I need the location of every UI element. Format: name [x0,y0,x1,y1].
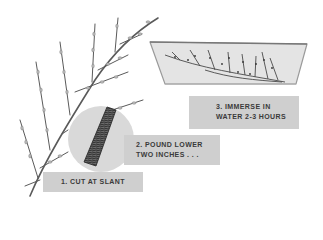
step-2-line-2: TWO INCHES . . . [136,150,220,160]
step-2-line-1: 2. POUND LOWER [136,140,220,150]
step-3-label: 3. IMMERSE IN WATER 2-3 HOURS [189,96,299,129]
step-1-label: 1. CUT AT SLANT [43,172,143,192]
water-basin [150,42,307,84]
step-2-label: 2. POUND LOWER TWO INCHES . . . [124,135,220,165]
step-3-line-2: WATER 2-3 HOURS [216,112,299,122]
step-1-text: 1. CUT AT SLANT [61,177,143,187]
step-3-line-1: 3. IMMERSE IN [216,102,299,112]
